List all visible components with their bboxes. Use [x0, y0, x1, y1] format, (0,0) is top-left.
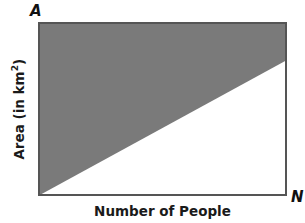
y-axis-label-suffix: )	[10, 59, 26, 65]
diagram-svg	[38, 22, 287, 196]
corner-label-a: A	[30, 4, 42, 19]
y-axis-label: Area (in km2)	[10, 59, 27, 160]
y-axis-label-container: Area (in km2)	[6, 22, 30, 196]
diagram-frame	[38, 22, 287, 196]
y-axis-label-text: Area (in km	[10, 71, 26, 159]
y-axis-label-superscript: 2	[10, 65, 20, 71]
x-axis-label: Number of People	[0, 203, 305, 219]
